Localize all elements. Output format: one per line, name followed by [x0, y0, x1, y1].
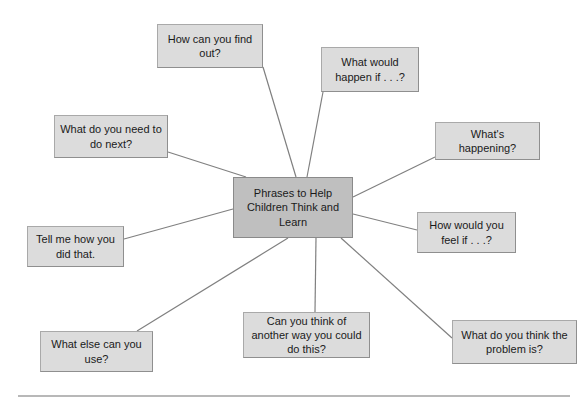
node-what-do-you-need-to-do-next[interactable]: What do you need to do next?: [54, 115, 168, 158]
node-label: What's happening?: [441, 127, 534, 155]
footer-rule: [18, 395, 570, 397]
node-tell-me-how-you-did-that[interactable]: Tell me how you did that.: [27, 226, 124, 267]
node-label: Can you think of another way you could d…: [249, 314, 364, 356]
node-whats-happening[interactable]: What's happening?: [435, 122, 540, 160]
node-what-would-happen-if[interactable]: What would happen if . . .?: [321, 47, 419, 92]
node-label: What would happen if . . .?: [327, 55, 413, 83]
connector-how-can-you-find-out: [263, 67, 296, 177]
node-label: How would you feel if . . .?: [423, 218, 510, 246]
node-can-you-think-of-another-way[interactable]: Can you think of another way you could d…: [243, 312, 370, 358]
node-label: What else can you use?: [46, 337, 147, 365]
node-what-do-you-think-the-problem-is[interactable]: What do you think the problem is?: [452, 320, 577, 364]
node-label: Tell me how you did that.: [33, 232, 118, 260]
diagram-canvas: Phrases to Help Children Think and Learn…: [0, 0, 588, 403]
connector-tell-me-how-you-did-that: [124, 209, 233, 239]
node-label: What do you think the problem is?: [458, 328, 571, 356]
center-node[interactable]: Phrases to Help Children Think and Learn: [233, 177, 353, 238]
connector-how-would-you-feel-if: [353, 214, 417, 230]
center-node-label: Phrases to Help Children Think and Learn: [240, 186, 346, 228]
connector-what-do-you-need-to-do-next: [168, 152, 246, 177]
node-how-would-you-feel-if[interactable]: How would you feel if . . .?: [417, 212, 516, 253]
node-what-else-can-you-use[interactable]: What else can you use?: [40, 331, 153, 372]
connector-whats-happening: [353, 157, 435, 197]
connector-can-you-think-of-another-way: [315, 238, 316, 312]
connector-what-would-happen-if: [307, 92, 323, 177]
node-label: What do you need to do next?: [60, 122, 162, 150]
node-label: How can you find out?: [163, 32, 257, 60]
node-how-can-you-find-out[interactable]: How can you find out?: [157, 24, 263, 68]
